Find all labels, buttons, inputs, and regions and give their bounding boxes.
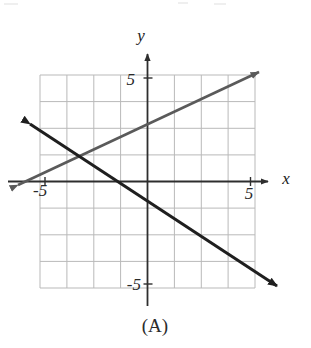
scan-artifact — [214, 3, 226, 5]
coordinate-graph: y x 5 -5 -5 5 (A) — [0, 0, 311, 348]
tick-label-y-5: 5 — [127, 70, 136, 89]
y-axis-label: y — [135, 26, 145, 45]
scan-artifact — [4, 3, 18, 5]
axis-lines — [8, 54, 268, 306]
tick-label-x-neg5: -5 — [33, 181, 47, 200]
figure-caption: (A) — [142, 315, 168, 337]
figure-root: y x 5 -5 -5 5 (A) — [0, 0, 311, 348]
x-axis-label: x — [281, 169, 290, 188]
tick-label-x-5: 5 — [245, 184, 254, 203]
scan-artifact — [178, 2, 188, 4]
tick-label-y-neg5: -5 — [127, 275, 141, 294]
